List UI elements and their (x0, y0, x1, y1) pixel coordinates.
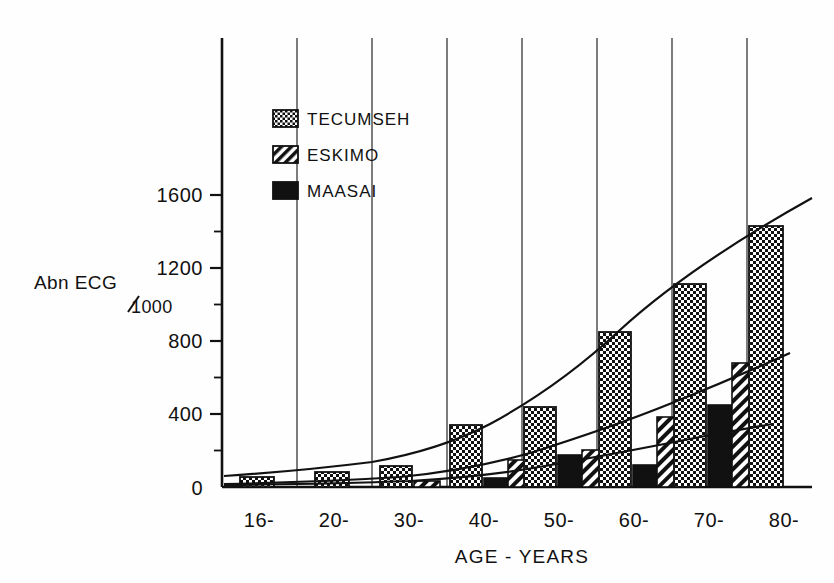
x-tick-label-80: 80- (769, 509, 799, 531)
y-axis-title-denominator: 1000 (131, 297, 173, 317)
y-tick-label-0: 0 (191, 477, 203, 499)
legend-swatch-maasai (273, 182, 298, 199)
x-tick-label-16: 16- (244, 509, 274, 531)
bar-eskimo-30 (414, 481, 440, 487)
legend-swatch-eskimo (273, 146, 298, 163)
legend-label-eskimo: ESKIMO (307, 146, 379, 165)
bar-tecumseh-80 (749, 226, 783, 487)
y-tick-labels: 1600 1200 800 400 0 (157, 184, 204, 499)
bar-maasai-70 (708, 405, 732, 487)
x-tick-label-30: 30- (394, 509, 424, 531)
x-tick-labels: 16- 20- 30- 40- 50- 60- 70- 80- (244, 509, 799, 531)
bar-maasai-60 (633, 465, 657, 487)
x-tick-label-20: 20- (319, 509, 349, 531)
y-tick-label-400: 400 (168, 403, 203, 425)
bar-group-60 (599, 332, 681, 487)
x-tick-label-40: 40- (469, 509, 499, 531)
legend-label-tecumseh: TECUMSEH (307, 110, 410, 129)
x-axis-title: AGE - YEARS (455, 546, 589, 567)
legend: TECUMSEH ESKIMO MAASAI (273, 110, 410, 201)
bar-group-80 (749, 226, 783, 487)
y-tick-label-1600: 1600 (157, 184, 204, 206)
bar-maasai-40 (484, 478, 508, 487)
y-tick-label-1200: 1200 (157, 257, 204, 279)
bar-group-50 (524, 407, 606, 487)
legend-label-maasai: MAASAI (307, 182, 377, 201)
y-axis (210, 38, 222, 487)
legend-swatch-tecumseh (273, 110, 298, 127)
chart-svg: 1600 1200 800 400 0 Abn ECG 1000 (0, 0, 834, 583)
y-axis-title: Abn ECG 1000 (34, 272, 173, 317)
x-tick-label-50: 50- (544, 509, 574, 531)
bar-tecumseh-60 (599, 332, 631, 487)
y-axis-title-numerator: Abn ECG (34, 272, 117, 293)
x-tick-label-60: 60- (619, 509, 649, 531)
y-tick-label-800: 800 (168, 330, 203, 352)
figure-canvas: 1600 1200 800 400 0 Abn ECG 1000 (0, 0, 834, 583)
x-tick-label-70: 70- (694, 509, 724, 531)
bar-tecumseh-70 (674, 284, 706, 487)
